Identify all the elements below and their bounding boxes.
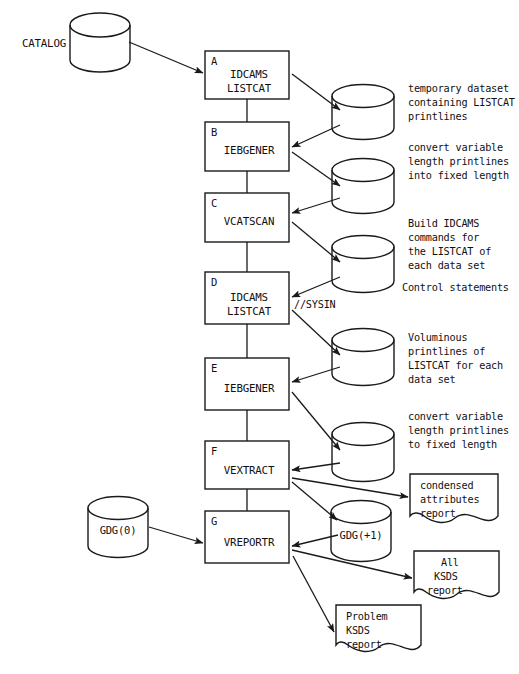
datastore-label-gdg-0: GDG(0) (100, 524, 137, 536)
arrow-g-to-problem-ksds (293, 556, 334, 632)
note-temp-dataset-line2: containing LISTCAT (408, 97, 515, 108)
note-convert-1-line3: into fixed length (408, 170, 509, 181)
note-build-idcams-line3: the LISTCAT of (408, 246, 491, 257)
datastore-label-gdg-plus-1: GDG(+1) (340, 529, 383, 541)
doc-all-ksds-line1: All (441, 557, 459, 568)
arrow-e-to-fixed (292, 392, 340, 450)
doc-problem-line2: KSDS (346, 625, 370, 636)
datastore-voluminous-printlines (332, 329, 394, 386)
arrow-a-to-temp1 (292, 74, 340, 110)
note-voluminous-line3: LISTCAT for each (408, 360, 503, 371)
doc-problem-line1: Problem (346, 611, 388, 622)
arrow-d-to-voluminous (292, 310, 340, 355)
datastore-temp-1 (332, 85, 394, 140)
note-voluminous-line2: printlines of (408, 346, 485, 357)
step-name-c-line1: VCATSCAN (224, 215, 274, 228)
step-name-a-line1: IDCAMS (230, 68, 268, 81)
step-letter-d: D (211, 276, 217, 288)
step-name-e-line1: IEBGENER (224, 382, 275, 395)
step-name-d-line2: LISTCAT (227, 305, 272, 318)
note-temp-dataset-line3: printlines (408, 111, 467, 122)
step-name-g-line1: VREPORTR (224, 536, 275, 549)
note-control-line1: Control statements (402, 282, 509, 293)
datastore-control-statements (332, 236, 394, 293)
step-name-b-line1: IEBGENER (224, 144, 275, 157)
doc-all-ksds-line3: report (427, 585, 463, 596)
arrow-gdg0-to-g (149, 527, 203, 543)
arrow-temp1-to-b (292, 125, 340, 147)
step-letter-e: E (211, 362, 217, 374)
step-letter-g: G (211, 515, 217, 527)
arrow-f-to-gdgplus1 (292, 482, 337, 520)
step-letter-f: F (211, 445, 217, 457)
note-voluminous-line4: data set (408, 374, 456, 385)
arrow-fixed-to-f (292, 463, 340, 470)
note-convert-1-line2: length printlines (408, 156, 509, 167)
note-build-idcams-line1: Build IDCAMS (408, 218, 479, 229)
note-build-idcams-line4: each data set (408, 260, 485, 271)
arrow-voluminous-to-e (292, 367, 340, 382)
step-name-a-line2: LISTCAT (227, 82, 272, 95)
doc-condensed-line1: condensed (420, 480, 473, 491)
note-convert-2-line2: length printlines (408, 425, 509, 436)
datastore-fixed-length (332, 423, 394, 482)
note-convert-1-line1: convert variable (408, 142, 503, 153)
step-letter-b: B (211, 126, 217, 138)
edge-label-sysin: //SYSIN (294, 299, 336, 310)
step-letter-a: A (211, 55, 218, 67)
doc-problem-line3: report (346, 639, 382, 650)
step-name-d-line1: IDCAMS (230, 291, 268, 304)
step-name-f-line1: VEXTRACT (224, 464, 275, 477)
note-convert-2-line3: to fixed length (408, 439, 497, 450)
note-convert-2-line1: convert variable (408, 411, 503, 422)
flowchart-canvas: CATALOG A IDCAMS LISTCAT B IEBGENER C VC… (0, 0, 519, 674)
arrow-g-to-all-ksds (292, 550, 412, 578)
datastore-label-catalog: CATALOG (22, 37, 66, 50)
arrow-control-to-d (292, 277, 340, 297)
arrow-catalog-to-a (129, 42, 203, 73)
datastore-temp-2 (332, 159, 394, 214)
note-temp-dataset-line1: temporary dataset (408, 83, 509, 94)
note-build-idcams-line2: commands for (408, 232, 479, 243)
flowchart-svg: CATALOG A IDCAMS LISTCAT B IEBGENER C VC… (0, 0, 519, 674)
doc-all-ksds-line2: KSDS (434, 571, 458, 582)
doc-condensed-line2: attributes (420, 494, 479, 505)
doc-condensed-line3: report (420, 508, 456, 519)
arrow-c-to-control (292, 222, 340, 262)
note-voluminous-line1: Voluminous (408, 332, 467, 343)
datastore-catalog (70, 13, 130, 72)
step-letter-c: C (211, 197, 217, 209)
